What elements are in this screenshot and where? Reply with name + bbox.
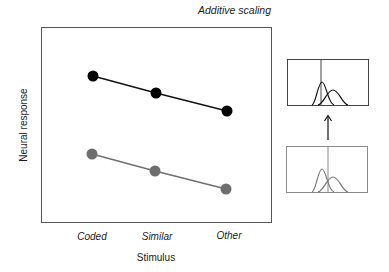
figure-title: Additive scaling (197, 4, 271, 16)
data-point-other-low (221, 184, 232, 195)
series-high (88, 71, 233, 117)
additive-scaling-figure: Additive scaling Neural response Coded S… (0, 0, 389, 272)
up-arrow-icon (325, 116, 332, 141)
x-tick-coded: Coded (77, 231, 107, 242)
data-point-coded-high (88, 71, 99, 82)
plot-frame (42, 28, 272, 223)
data-point-similar-high (151, 88, 162, 99)
data-point-other-high (222, 106, 233, 117)
inset-after-scaling (288, 60, 369, 106)
inset-top-tuning-curve-wide (318, 90, 348, 105)
y-axis-label: Neural response (18, 88, 29, 162)
data-point-similar-low (150, 166, 161, 177)
x-tick-similar: Similar (142, 231, 173, 242)
inset-before-scaling (287, 147, 368, 193)
data-point-coded-low (87, 149, 98, 160)
series-low (87, 149, 232, 195)
inset-bottom-tuning-curve-wide (318, 177, 348, 192)
inset-top-frame (288, 60, 369, 106)
inset-bottom-frame (287, 147, 368, 193)
x-tick-other: Other (216, 230, 242, 241)
x-axis-label: Stimulus (137, 252, 175, 263)
